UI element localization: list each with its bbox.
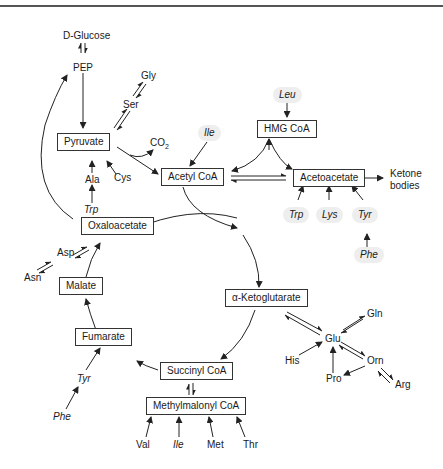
methylmalonyl-coa-box: Methylmalonyl CoA bbox=[146, 397, 246, 415]
cys-label: Cys bbox=[114, 172, 131, 184]
arg-label: Arg bbox=[395, 379, 411, 391]
pro-label: Pro bbox=[326, 373, 342, 385]
phe-fumarate-label: Phe bbox=[53, 411, 71, 423]
met-label: Met bbox=[207, 439, 224, 451]
acetyl-coa-box: Acetyl CoA bbox=[161, 168, 224, 186]
ile-acetyl-label: Ile bbox=[198, 125, 221, 141]
phe-aceto-label: Phe bbox=[354, 247, 384, 263]
hmg-coa-box: HMG CoA bbox=[257, 120, 317, 138]
orn-label: Orn bbox=[367, 355, 384, 367]
his-label: His bbox=[285, 355, 299, 367]
asp-label: Asp bbox=[57, 247, 74, 259]
alpha-ketoglutarate-box: α-Ketoglutarate bbox=[225, 289, 308, 307]
trp-pyruvate-label: Trp bbox=[84, 204, 98, 216]
glu-label: Glu bbox=[325, 333, 341, 345]
ser-label: Ser bbox=[123, 99, 139, 111]
lys-label: Lys bbox=[316, 207, 343, 223]
leu-label: Leu bbox=[273, 87, 302, 103]
ketone-bodies-label: Ketonebodies bbox=[390, 168, 422, 192]
fumarate-box: Fumarate bbox=[75, 328, 132, 346]
ala-label: Ala bbox=[85, 174, 99, 186]
thr-label: Thr bbox=[243, 439, 258, 451]
succinyl-coa-box: Succinyl CoA bbox=[160, 362, 233, 380]
pyruvate-box: Pyruvate bbox=[57, 133, 110, 151]
gln-label: Gln bbox=[367, 308, 383, 320]
tyr-fumarate-label: Tyr bbox=[77, 373, 91, 385]
pep-label: PEP bbox=[73, 62, 93, 74]
oxaloacetate-box: Oxaloacetate bbox=[81, 217, 154, 235]
val-label: Val bbox=[136, 439, 150, 451]
gly-label: Gly bbox=[141, 70, 156, 82]
co2-label: CO2 bbox=[150, 137, 169, 153]
d-glucose-label: D-Glucose bbox=[63, 30, 110, 42]
asn-label: Asn bbox=[24, 272, 41, 284]
trp-aceto-label: Trp bbox=[283, 207, 309, 223]
tyr-aceto-label: Tyr bbox=[352, 207, 378, 223]
malate-box: Malate bbox=[59, 277, 103, 295]
acetoacetate-box: Acetoacetate bbox=[293, 169, 365, 187]
ile-mm-label: Ile bbox=[173, 439, 184, 451]
